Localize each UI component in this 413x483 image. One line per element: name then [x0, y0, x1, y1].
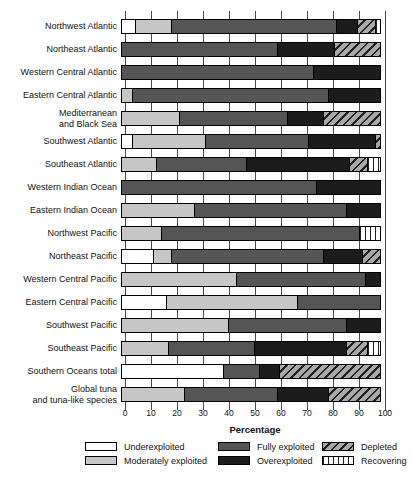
category-label: Eastern Central Atlantic: [0, 90, 121, 100]
bar-segment-moderately-exploited: [122, 273, 236, 286]
category-label: Western Central Atlantic: [0, 67, 121, 77]
bar-segment-fully-exploited: [184, 388, 277, 401]
category-label: Northwest Atlantic: [0, 21, 121, 31]
category-label: Global tunaand tuna-like species: [0, 384, 121, 405]
bar-segment-moderately-exploited: [122, 112, 179, 125]
fishery-status-stacked-bar-chart: Northwest AtlanticNortheast AtlanticWest…: [0, 0, 413, 483]
legend-column: DepletedRecovering: [322, 441, 407, 469]
bar-segment-overexploited: [308, 135, 375, 148]
category-label: Southeast Atlantic: [0, 159, 121, 169]
chart-area: Northwest AtlanticNortheast AtlanticWest…: [0, 15, 413, 435]
bar-segment-fully-exploited: [297, 296, 380, 309]
x-tick-label-80: 80: [328, 408, 337, 418]
stacked-bar: [121, 341, 381, 356]
bar-segment-moderately-exploited: [122, 319, 228, 332]
bar-segment-recovering: [359, 227, 380, 240]
category-label: Western Central Pacific: [0, 274, 121, 284]
bar-segment-overexploited: [323, 250, 362, 263]
chart-row: Western Central Atlantic: [0, 61, 413, 84]
bar-segment-fully-exploited: [132, 89, 328, 102]
legend-item: Fully exploited: [218, 441, 315, 452]
bar-segment-recovering: [367, 342, 380, 355]
bar-segment-underexploited: [122, 20, 135, 33]
legend-swatch-depleted: [322, 442, 354, 451]
chart-row: Northwest Atlantic: [0, 15, 413, 38]
bar-segment-overexploited: [316, 181, 381, 194]
legend-column: Fully exploitedOverexploited: [218, 441, 315, 469]
stacked-bar: [121, 295, 381, 310]
legend-item: Overexploited: [218, 455, 315, 466]
category-label: Southwest Pacific: [0, 320, 121, 330]
legend-item: Depleted: [322, 441, 407, 452]
stacked-bar: [121, 272, 381, 287]
bar-segment-fully-exploited: [168, 342, 253, 355]
bar-segment-depleted: [357, 20, 375, 33]
bar-segment-fully-exploited: [122, 43, 277, 56]
x-tick-label-20: 20: [172, 408, 181, 418]
legend-item: Moderately exploited: [85, 455, 207, 466]
bar-segment-overexploited: [346, 204, 380, 217]
x-tick-label-50: 50: [250, 408, 259, 418]
stacked-bar: [121, 226, 381, 241]
stacked-bar: [121, 42, 381, 57]
chart-row: Eastern Indian Ocean: [0, 199, 413, 222]
bar-segment-fully-exploited: [171, 20, 336, 33]
category-label: Southwest Atlantic: [0, 136, 121, 146]
x-tick-label-90: 90: [354, 408, 363, 418]
bar-segment-depleted: [334, 43, 380, 56]
plot-rows-wrapper: Northwest AtlanticNortheast AtlanticWest…: [0, 15, 413, 406]
stacked-bar: [121, 111, 381, 126]
x-tick-label-40: 40: [224, 408, 233, 418]
bar-segment-overexploited: [277, 388, 329, 401]
bar-segment-fully-exploited: [156, 158, 246, 171]
x-tick-label-0: 0: [123, 408, 128, 418]
legend: UnderexploitedModerately exploitedFully …: [0, 441, 413, 473]
bar-segment-moderately-exploited: [122, 204, 194, 217]
bar-segment-overexploited: [328, 89, 380, 102]
category-label: Eastern Central Pacific: [0, 297, 121, 307]
chart-row: Mediterraneanand Black Sea: [0, 107, 413, 130]
bar-segment-underexploited: [122, 296, 166, 309]
bar-segment-overexploited: [287, 112, 323, 125]
bar-segment-overexploited: [277, 43, 334, 56]
bar-segment-moderately-exploited: [122, 227, 161, 240]
category-label: Southern Oceans total: [0, 366, 121, 376]
chart-row: Southern Oceans total: [0, 360, 413, 383]
bar-segment-depleted: [346, 342, 367, 355]
bar-segment-overexploited: [365, 273, 380, 286]
stacked-bar: [121, 88, 381, 103]
chart-row: Northwest Pacific: [0, 222, 413, 245]
stacked-bar: [121, 134, 381, 149]
bar-segment-recovering: [367, 158, 380, 171]
bar-segment-fully-exploited: [223, 365, 259, 378]
plot-rows: Northwest AtlanticNortheast AtlanticWest…: [0, 15, 413, 406]
bar-segment-underexploited: [122, 250, 153, 263]
bar-segment-depleted: [375, 135, 380, 148]
x-axis-title: Percentage: [125, 424, 385, 435]
category-label: Northeast Pacific: [0, 251, 121, 261]
category-label: Northeast Atlantic: [0, 44, 121, 54]
legend-label: Depleted: [361, 442, 397, 452]
legend-label: Underexploited: [124, 442, 185, 452]
chart-row: Southeast Pacific: [0, 337, 413, 360]
bar-segment-moderately-exploited: [135, 20, 171, 33]
bar-segment-underexploited: [122, 135, 132, 148]
bar-segment-moderately-exploited: [122, 342, 168, 355]
category-label: Northwest Pacific: [0, 228, 121, 238]
legend-swatch-recovering: [322, 456, 354, 465]
chart-row: Eastern Central Atlantic: [0, 84, 413, 107]
bar-segment-moderately-exploited: [122, 89, 132, 102]
chart-row: Southwest Pacific: [0, 314, 413, 337]
bar-segment-fully-exploited: [179, 112, 287, 125]
chart-row: Northeast Atlantic: [0, 38, 413, 61]
category-label: Eastern Indian Ocean: [0, 205, 121, 215]
legend-column: UnderexploitedModerately exploited: [85, 441, 207, 469]
chart-row: Global tunaand tuna-like species: [0, 383, 413, 406]
bar-segment-fully-exploited: [122, 66, 313, 79]
stacked-bar: [121, 180, 381, 195]
bar-segment-depleted: [362, 250, 380, 263]
stacked-bar: [121, 65, 381, 80]
chart-row: Western Indian Ocean: [0, 176, 413, 199]
legend-swatch-fully-exploited: [218, 442, 250, 451]
bar-segment-moderately-exploited: [166, 296, 298, 309]
